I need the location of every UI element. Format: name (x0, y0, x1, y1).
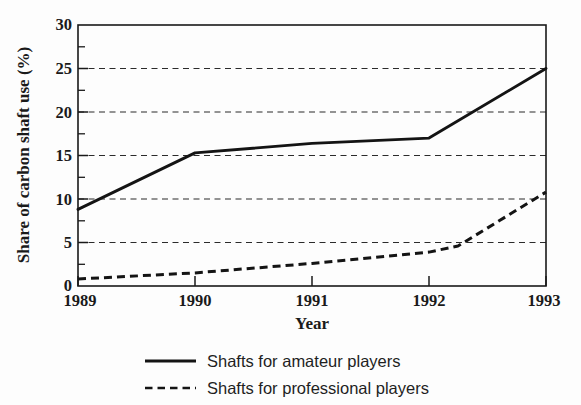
y-tick-label-25: 25 (56, 59, 73, 78)
chart-legend: Shafts for amateur players Shafts for pr… (145, 352, 429, 397)
line-chart: Share of carbon shaft use (%) 30 25 20 1… (0, 0, 581, 405)
y-axis-title: Share of carbon shaft use (%) (14, 47, 33, 263)
legend-label-professional: Shafts for professional players (207, 379, 429, 397)
series-line-professional (78, 192, 546, 279)
chart-page: Share of carbon shaft use (%) 30 25 20 1… (0, 0, 581, 405)
x-tick-label-1992: 1992 (413, 291, 446, 310)
x-tick-label-1991: 1991 (296, 291, 329, 310)
y-tick-label-20: 20 (56, 103, 73, 122)
y-tick-label-30: 30 (56, 15, 73, 34)
x-tick-label-1993: 1993 (528, 291, 561, 310)
x-tick-label-1990: 1990 (179, 291, 212, 310)
y-tick-label-15: 15 (56, 146, 73, 165)
y-tick-label-5: 5 (64, 233, 72, 252)
y-tick-label-10: 10 (56, 190, 73, 209)
x-tick-label-1989: 1989 (64, 291, 97, 310)
series-line-amateur (78, 69, 546, 210)
x-axis-title: Year (295, 314, 329, 333)
legend-label-amateur: Shafts for amateur players (207, 352, 401, 370)
